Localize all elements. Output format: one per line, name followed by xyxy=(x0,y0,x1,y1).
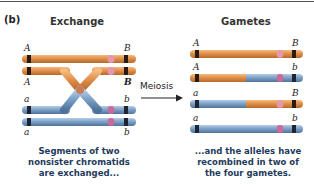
allele-label: B xyxy=(292,38,299,48)
allele-label: b xyxy=(292,62,298,72)
meiosis-label: Meiosis xyxy=(140,81,173,91)
exchange-chromatids xyxy=(22,55,136,126)
allele-label: b xyxy=(124,94,130,104)
allele-label: a xyxy=(24,127,29,137)
gamete-chromatids xyxy=(190,50,303,133)
allele-label: B xyxy=(124,77,132,87)
gametes-caption: ...and the alleles have recombined in tw… xyxy=(188,146,308,179)
allele-label: A xyxy=(24,43,31,53)
allele-label: b xyxy=(292,113,298,123)
allele-label: B xyxy=(124,43,131,53)
allele-label: A xyxy=(193,38,200,48)
meiosis-arrow xyxy=(141,95,183,102)
exchange-caption: Segments of two nonsister chromatids are… xyxy=(18,146,140,179)
allele-label: B xyxy=(292,88,299,98)
allele-label: b xyxy=(124,127,130,137)
allele-label: A xyxy=(193,62,200,72)
allele-label: a xyxy=(24,94,29,104)
allele-label: A xyxy=(24,77,31,87)
allele-label: a xyxy=(193,88,198,98)
allele-label: a xyxy=(193,113,198,123)
